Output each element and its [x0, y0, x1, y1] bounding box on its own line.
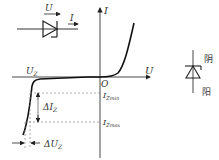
iv-curve	[23, 23, 134, 135]
izmax-label: IZmax	[102, 118, 120, 128]
diagram-svg: U I I U O UZ ΔIZ IZmin IZmax ΔUZ	[0, 0, 219, 160]
uz-label: UZ	[26, 66, 39, 77]
zener-iv-diagram: U I I U O UZ ΔIZ IZmin IZmax ΔUZ	[0, 0, 219, 160]
zener-diode-symbol: 阴 阳	[185, 50, 213, 97]
izmin-label: IZmin	[102, 91, 119, 101]
anode-label: 阳	[202, 87, 211, 97]
reference-lines	[25, 93, 100, 148]
cathode-label: 阴	[204, 54, 213, 64]
x-axis-label: U	[145, 65, 154, 76]
diode-u-label: U	[45, 3, 53, 13]
delta-iz-label: ΔIZ	[42, 102, 58, 113]
delta-uz-indicator: ΔUZ	[12, 139, 63, 150]
diode-i-label: I	[69, 13, 74, 23]
delta-uz-label: ΔUZ	[43, 139, 63, 150]
delta-iz-indicator: ΔIZ	[38, 93, 58, 122]
origin-label: O	[101, 79, 109, 89]
diode-symbol: U I	[17, 3, 78, 37]
y-axis-label: I	[103, 5, 109, 16]
